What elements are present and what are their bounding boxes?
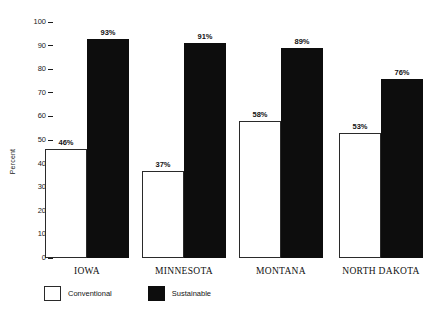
bar-montana-sustainable [281,48,323,258]
chart-legend: ConventionalSustainable [44,283,247,303]
bar-iowa-sustainable [87,39,129,258]
legend-item-sustainable: Sustainable [148,286,211,301]
plot-area: 46%93%IOWA37%91%MINNESOTA58%89%MONTANA53… [0,0,438,312]
bar-chart: Percent 0102030405060708090100 46%93%IOW… [0,0,438,312]
x-axis-category-label: NORTH DAKOTA [317,266,438,276]
bar-value-label: 91% [178,32,232,41]
legend-item-conventional: Conventional [44,286,112,301]
legend-label: Conventional [68,289,112,298]
bar-value-label: 89% [275,37,329,46]
bar-minnesota-conventional [142,171,184,258]
legend-swatch-sustainable [148,286,165,301]
bar-value-label: 46% [39,138,93,147]
bar-value-label: 53% [333,122,387,131]
bar-value-label: 93% [81,28,135,37]
bar-north-dakota-sustainable [381,79,423,258]
bar-iowa-conventional [45,149,87,258]
bar-montana-conventional [239,121,281,258]
bar-value-label: 76% [375,68,429,77]
bar-north-dakota-conventional [339,133,381,258]
bar-minnesota-sustainable [184,43,226,258]
legend-swatch-conventional [44,286,61,301]
bar-value-label: 37% [136,160,190,169]
bar-value-label: 58% [233,110,287,119]
legend-label: Sustainable [172,289,211,298]
